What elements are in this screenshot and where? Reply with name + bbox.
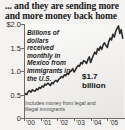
page-title: ... and they are sending more and more m… (5, 1, 123, 21)
chart-footnote: Includes money from legal and illegal im… (25, 101, 97, 113)
x-axis-tick (41, 118, 42, 121)
y-axis-tick (21, 71, 24, 72)
x-axis-tick (57, 118, 58, 121)
y-axis-tick-label: 1.0 (0, 67, 21, 76)
x-axis-tick (24, 118, 25, 121)
y-axis-tick-label: $2.0 (0, 20, 21, 29)
y-axis-tick-label: 0 (0, 114, 21, 123)
y-axis-tick-label: 1.5 (0, 44, 21, 53)
y-axis-tick (21, 24, 24, 25)
x-axis-tick-label: '02 (60, 119, 68, 126)
y-axis-tick (21, 95, 24, 96)
y-axis-tick-label: 0.5 (0, 91, 21, 100)
x-axis-tick (74, 118, 75, 121)
x-axis-tick-label: '00 (26, 119, 34, 126)
x-axis-tick-label: '01 (43, 119, 51, 126)
infographic-card: ... and they are sending more and more m… (0, 0, 125, 130)
callout-unit: billion (82, 81, 106, 90)
x-axis-tick (107, 118, 108, 121)
x-axis-tick-label: '03 (76, 119, 84, 126)
x-axis-tick-label: '04 (93, 119, 101, 126)
chart-callout-latest-value: $1.7 billion (82, 73, 122, 90)
chart-annotation-description: Billions of dollars received monthly in … (27, 29, 75, 82)
x-axis-tick-label: '05 (110, 119, 118, 126)
x-axis-tick (91, 118, 92, 121)
y-axis-tick (21, 48, 24, 49)
